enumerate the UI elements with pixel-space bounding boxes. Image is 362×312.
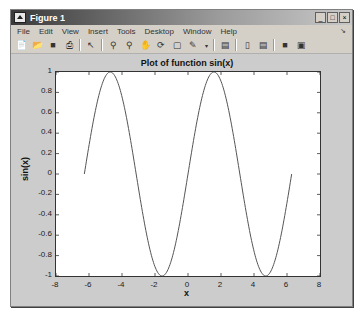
- rotate-3d-icon[interactable]: ⟳: [155, 40, 167, 51]
- menu-insert[interactable]: Insert: [88, 27, 108, 36]
- title-bar[interactable]: Figure 1 _ □ ×: [11, 10, 352, 25]
- menu-desktop[interactable]: Desktop: [145, 27, 174, 36]
- zoom-out-icon[interactable]: ⚲: [123, 40, 135, 51]
- y-axis-label: sin(x): [20, 157, 30, 181]
- menu-bar: File Edit View Insert Tools Desktop Wind…: [11, 25, 352, 37]
- plot-axes[interactable]: [55, 71, 321, 277]
- y-tick-label: 0.6: [22, 107, 52, 116]
- y-tick-label: -1: [22, 270, 52, 279]
- y-tick-label: 1: [22, 66, 52, 75]
- open-file-icon[interactable]: 📂: [31, 40, 43, 51]
- dock-arrow-icon[interactable]: ↘: [340, 27, 346, 35]
- toolbar-separator: [273, 39, 275, 51]
- x-tick-label: 8: [309, 280, 329, 289]
- x-tick-label: -6: [78, 280, 98, 289]
- x-tick-label: -8: [45, 280, 65, 289]
- show-plot-tools-icon[interactable]: ▣: [295, 40, 307, 51]
- y-tick-label: 0.8: [22, 86, 52, 95]
- insert-colorbar-icon[interactable]: ▯: [241, 40, 253, 51]
- insert-legend-icon[interactable]: ▤: [257, 40, 269, 51]
- link-plot-icon[interactable]: ▤: [219, 40, 231, 51]
- zoom-in-icon[interactable]: ⚲: [107, 40, 119, 51]
- x-axis-label: x: [184, 288, 189, 298]
- y-tick-label: -0.8: [22, 250, 52, 259]
- toolbar-separator: [235, 39, 237, 51]
- toolbar-separator: [213, 39, 215, 51]
- brush-dropdown-icon[interactable]: ▾: [203, 40, 209, 51]
- print-icon[interactable]: ⎙: [63, 40, 75, 51]
- toolbar-separator: [101, 39, 103, 51]
- new-figure-icon[interactable]: 📄: [15, 40, 27, 51]
- save-icon[interactable]: ■: [47, 40, 59, 51]
- x-tick-label: 6: [276, 280, 296, 289]
- y-tick-label: -0.6: [22, 229, 52, 238]
- x-tick-label: -2: [144, 280, 164, 289]
- y-tick-label: 0.4: [22, 127, 52, 136]
- figure-canvas: Plot of function sin(x) 10.80.60.40.20-0…: [11, 54, 352, 306]
- menu-view[interactable]: View: [62, 27, 79, 36]
- figure-toolbar: 📄 📂 ■ ⎙ ↖ ⚲ ⚲ ✋ ⟳ ▢ ✎ ▾ ▤ ▯ ▤ ■ ▣: [11, 37, 352, 54]
- sine-curve: [56, 72, 320, 276]
- y-tick-label: -0.4: [22, 209, 52, 218]
- maximize-button[interactable]: □: [327, 12, 338, 23]
- menu-help[interactable]: Help: [220, 27, 236, 36]
- x-tick-label: 4: [243, 280, 263, 289]
- window-title: Figure 1: [30, 13, 65, 23]
- data-cursor-icon[interactable]: ▢: [171, 40, 183, 51]
- minimize-button[interactable]: _: [315, 12, 326, 23]
- menu-file[interactable]: File: [17, 27, 30, 36]
- pan-hand-icon[interactable]: ✋: [139, 40, 151, 51]
- figure-window: Figure 1 _ □ × File Edit View Insert Too…: [10, 9, 353, 307]
- y-tick-label: 0.2: [22, 148, 52, 157]
- toolbar-separator: [79, 39, 81, 51]
- x-tick-label: -4: [111, 280, 131, 289]
- brush-icon[interactable]: ✎: [187, 40, 199, 51]
- close-button[interactable]: ×: [339, 12, 350, 23]
- y-tick-label: -0.2: [22, 188, 52, 197]
- window-controls: _ □ ×: [315, 12, 350, 23]
- hide-plot-tools-icon[interactable]: ■: [279, 40, 291, 51]
- menu-edit[interactable]: Edit: [39, 27, 53, 36]
- edit-plot-arrow-icon[interactable]: ↖: [85, 40, 97, 51]
- chart-title: Plot of function sin(x): [55, 58, 319, 68]
- menu-window[interactable]: Window: [183, 27, 211, 36]
- matlab-figure-icon: [14, 12, 26, 23]
- menu-tools[interactable]: Tools: [117, 27, 136, 36]
- x-tick-label: 2: [210, 280, 230, 289]
